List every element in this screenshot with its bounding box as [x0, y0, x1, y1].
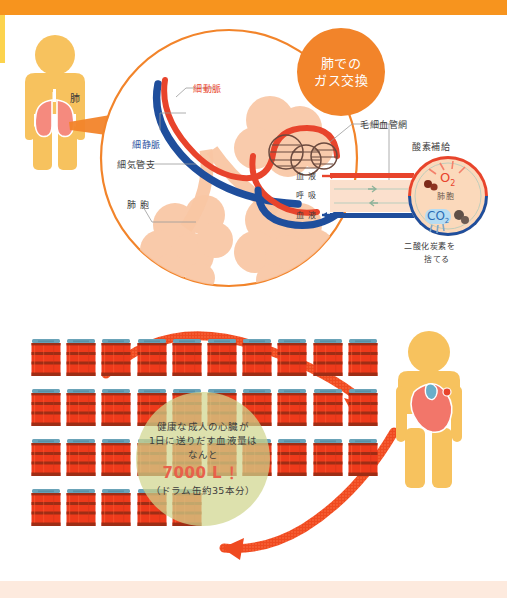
drum-can [66, 439, 96, 476]
drum-can [31, 339, 61, 376]
drum-can [207, 339, 237, 376]
label-blood-out: 血 液 [296, 209, 316, 220]
artery-tube [330, 173, 414, 178]
label-lungs: 肺 [70, 90, 81, 105]
label-oxygen-supply: 酸素補給 [412, 140, 450, 153]
vein-tube [330, 213, 414, 218]
label-alveolus-detail: 肺胞 [437, 190, 454, 201]
drum-can [101, 439, 131, 476]
airway-tube [330, 180, 414, 212]
drum-can [31, 389, 61, 426]
drum-can [348, 339, 378, 376]
label-co2-discard-1: 二酸化炭素を [404, 240, 455, 251]
drum-can [348, 389, 378, 426]
drum-can [31, 489, 61, 526]
callout-line4: （ドラム缶約35本分） [151, 484, 255, 498]
drum-can [313, 389, 343, 426]
drum-can [277, 339, 307, 376]
heart-shape [411, 384, 452, 433]
drum-can [313, 439, 343, 476]
drum-can [101, 489, 131, 526]
drum-can [313, 339, 343, 376]
drum-can [277, 439, 307, 476]
drum-can [172, 339, 202, 376]
co2-label: CO2 [427, 209, 449, 225]
label-blood-in: 血 液 [296, 170, 316, 181]
label-co2-discard-2: 捨てる [424, 253, 450, 264]
drum-can [101, 339, 131, 376]
o2-label: O2 [440, 170, 455, 188]
blood-volume-callout: 健康な成人の心臓が 1日に送りだす血液量は なんと 7000 L ！ （ドラム缶… [136, 392, 270, 526]
label-respiration: 呼 吸 [296, 189, 316, 200]
callout-volume-value: 7000 L ！ [163, 462, 244, 485]
drum-can [242, 339, 272, 376]
label-arteriole: 細動脈 [193, 82, 222, 95]
label-capillary-network: 毛細血管網 [360, 118, 408, 131]
callout-line3: なんと [188, 448, 219, 462]
drum-can [66, 389, 96, 426]
drum-can [66, 489, 96, 526]
gas-exchange-badge: 肺での ガス交換 [297, 28, 385, 116]
drum-can [348, 439, 378, 476]
drum-can [31, 439, 61, 476]
human-body-heart-icon [396, 331, 462, 488]
label-alveolus: 肺 胞 [127, 198, 149, 211]
label-venule: 細静脈 [132, 138, 161, 151]
drum-can [277, 389, 307, 426]
callout-line2: 1日に送りだす血液量は [149, 434, 257, 448]
drum-can [137, 339, 167, 376]
badge-line2: ガス交換 [314, 72, 368, 89]
label-bronchiole: 細気管支 [117, 158, 155, 171]
drum-can [101, 389, 131, 426]
arrow-from-body-head [222, 538, 244, 560]
badge-line1: 肺での [321, 55, 362, 72]
callout-line1: 健康な成人の心臓が [157, 420, 249, 434]
infographic-page: 健康な成人の心臓が 1日に送りだす血液量は なんと 7000 L ！ （ドラム缶… [0, 0, 507, 598]
drum-can [66, 339, 96, 376]
